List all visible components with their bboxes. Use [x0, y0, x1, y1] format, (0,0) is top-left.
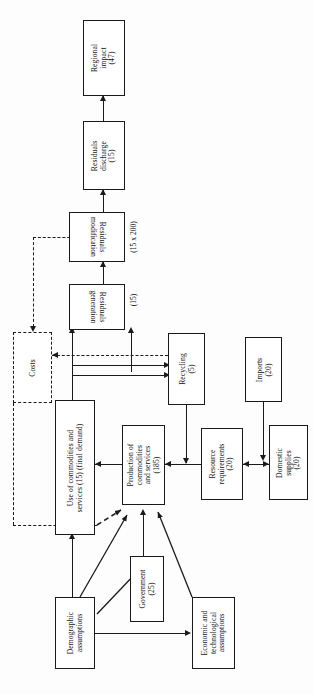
arrowhead-domestic-to-resource [243, 461, 249, 467]
edge-demographic-to-use [72, 535, 73, 602]
node-use-of-commodities[interactable]: Use of commodities and services (15) (fi… [55, 400, 95, 535]
arrowhead-recycling-to-generation [128, 327, 134, 333]
node-production-label: Production of commodities and services (… [127, 444, 161, 487]
node-domestic-supplies[interactable]: Domestic supplies (20) [269, 425, 308, 500]
edge-government-to-production [143, 512, 144, 556]
node-demographic-assumptions-label: Demographic assumptions [67, 612, 84, 654]
arrowhead-imports-down [260, 455, 266, 461]
node-resource-requirements[interactable]: Resource requirements (20) [201, 428, 243, 500]
node-imports[interactable]: Imports (20) [245, 337, 282, 402]
node-domestic-supplies-label: Domestic supplies (20) [276, 448, 302, 478]
node-imports-label: Imports (20) [255, 357, 272, 381]
node-residuals-modification[interactable]: Residuals modification [69, 212, 125, 262]
node-economic-technological-label: Economic and technological assumptions [201, 611, 227, 656]
edge-costs-to-production-diagonal [97, 510, 121, 525]
edge-recycling-to-costs [52, 355, 168, 356]
diagram-canvas: Regional impact (47) Residuals discharge… [0, 0, 314, 694]
node-demographic-assumptions[interactable]: Demographic assumptions [55, 597, 95, 669]
residuals-modification-caption: (15 x 200) [130, 221, 139, 253]
node-recycling[interactable]: Recycling (5) [168, 333, 205, 405]
node-regional-impact-label: Regional impact (47) [91, 44, 117, 72]
node-regional-impact[interactable]: Regional impact (47) [83, 20, 125, 96]
edge-demographic-to-economic [95, 633, 189, 634]
arrowhead-recycling-to-costs [52, 352, 58, 358]
arrowhead-resource-to-production [165, 461, 171, 467]
arrowhead-government-to-production [140, 509, 146, 515]
node-government-label: Government (25) [139, 570, 156, 609]
edge-costs-band-lower [72, 375, 170, 376]
node-residuals-discharge-label: Residuals discharge (15) [91, 140, 117, 170]
node-government[interactable]: Government (25) [130, 556, 164, 622]
node-use-of-commodities-label: Use of commodities and services (15) (fi… [67, 423, 84, 512]
edge-modification-to-costs-vertical [33, 237, 34, 327]
node-costs[interactable]: Costs [13, 332, 52, 403]
residuals-generation-caption: (15) [130, 294, 139, 307]
node-production[interactable]: Production of commodities and services (… [122, 425, 165, 505]
edge-imports-down [263, 402, 264, 458]
node-residuals-generation-label: Residuals generation [89, 290, 106, 323]
edge-costs-to-production-vertical [13, 403, 14, 525]
node-residuals-generation[interactable]: Residuals generation [69, 284, 125, 330]
node-resource-requirements-label: Resource requirements (20) [209, 444, 235, 485]
arrowhead-production-to-use [95, 461, 101, 467]
edge-recycling-to-production [186, 405, 187, 463]
node-residuals-modification-label: Residuals modification [89, 217, 106, 257]
node-residuals-discharge[interactable]: Residuals discharge (15) [83, 121, 125, 190]
node-recycling-label: Recycling (5) [178, 353, 195, 385]
arrowhead-demographic-to-economic [185, 630, 191, 636]
node-economic-technological[interactable]: Economic and technological assumptions [192, 597, 235, 669]
node-costs-label: Costs [28, 359, 37, 376]
edge-costs-band-upper [72, 365, 170, 366]
